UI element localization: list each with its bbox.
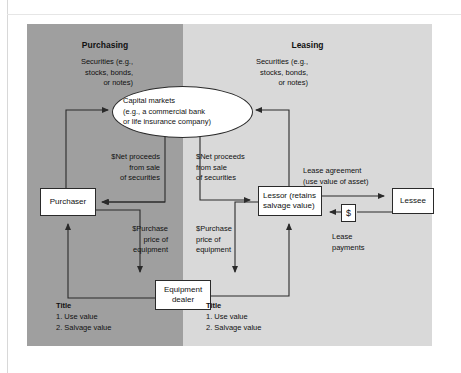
lessor-node: Lessor (retains salvage value): [258, 186, 322, 216]
purchase-right-line1: $Purchase: [196, 224, 268, 235]
lease-agreement-line2: (use value of asset): [303, 177, 413, 188]
securities-label-right: Securities (e.g., stocks, bonds, or note…: [218, 57, 308, 89]
equipment-dealer-line1: Equipment: [164, 285, 202, 294]
lease-agreement-label: Lease agreement (use value of asset): [303, 166, 413, 187]
net-proceeds-label-right: $Net proceeds from sale of securities: [196, 152, 280, 184]
lessor-line1: Lessor (retains: [263, 191, 316, 200]
securities-left-line2: stocks, bonds,: [57, 68, 133, 79]
title-right-item1: 1. Use value: [206, 311, 261, 322]
net-proceeds-label-left: $Net proceeds from sale of securities: [76, 152, 160, 184]
title-left-item2: 2. Salvage value: [56, 322, 111, 333]
purchase-left-line2: price of: [96, 235, 168, 246]
capital-markets-line2: (e.g., a commercial bank: [123, 107, 252, 118]
purchase-price-label-right: $Purchase price of equipment: [196, 224, 268, 256]
net-left-line1: $Net proceeds: [76, 152, 160, 163]
lease-payments-label: Lease payments: [332, 232, 392, 253]
lessee-node: Lessee: [392, 188, 434, 214]
figure-canvas: Purchasing Leasing: [0, 0, 461, 373]
securities-left-line1: Securities (e.g.,: [57, 57, 133, 68]
title-right-item2: 2. Salvage value: [206, 322, 261, 333]
equipment-dealer-line2: dealer: [172, 295, 194, 304]
securities-left-line3: or notes): [57, 78, 133, 89]
lease-payments-line2: payments: [332, 243, 392, 254]
title-right-heading: Title: [206, 300, 261, 311]
purchase-left-line1: $Purchase: [96, 224, 168, 235]
purchase-price-label-left: $Purchase price of equipment: [96, 224, 168, 256]
securities-right-line1: Securities (e.g.,: [218, 57, 308, 68]
title-block-right: Title 1. Use value 2. Salvage value: [206, 300, 261, 333]
lease-agreement-line1: Lease agreement: [303, 166, 413, 177]
title-block-left: Title 1. Use value 2. Salvage value: [56, 300, 111, 333]
capital-markets-line1: Capital markets: [123, 96, 252, 107]
purchaser-node: Purchaser: [40, 188, 96, 216]
securities-right-line3: or notes): [218, 78, 308, 89]
capital-markets-line3: or life insurance company): [123, 117, 252, 128]
net-right-line3: of securities: [196, 173, 280, 184]
title-left-item1: 1. Use value: [56, 311, 111, 322]
capital-markets-node: Capital markets (e.g., a commercial bank…: [112, 86, 253, 138]
net-right-line1: $Net proceeds: [196, 152, 280, 163]
purchase-right-line2: price of: [196, 235, 268, 246]
lease-payments-line1: Lease: [332, 232, 392, 243]
net-left-line3: of securities: [76, 173, 160, 184]
net-right-line2: from sale: [196, 163, 280, 174]
purchase-left-line3: equipment: [96, 245, 168, 256]
net-left-line2: from sale: [76, 163, 160, 174]
equipment-dealer-node: Equipment dealer: [155, 280, 211, 310]
lessor-line2: salvage value): [263, 201, 315, 210]
title-left-heading: Title: [56, 300, 111, 311]
dollar-node: $: [341, 204, 356, 222]
securities-right-line2: stocks, bonds,: [218, 68, 308, 79]
purchase-right-line3: equipment: [196, 245, 268, 256]
securities-label-left: Securities (e.g., stocks, bonds, or note…: [57, 57, 133, 89]
